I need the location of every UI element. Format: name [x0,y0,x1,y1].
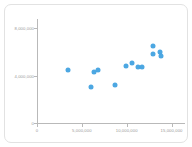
y-tick-label: 4,000,000 [14,73,34,78]
x-tick-label: 0 [36,128,38,133]
scatter-point[interactable] [130,61,135,66]
y-axis-line [37,19,38,123]
scatter-point[interactable] [150,44,155,49]
y-tick-label: 0 [32,121,34,126]
x-tick-label: 10,000,000 [116,128,138,133]
scatter-plot: 04,000,0008,000,000 05,000,00010,000,000… [5,5,189,144]
scatter-point[interactable] [95,68,100,73]
x-tick-label: 5,000,000 [72,128,92,133]
x-tick-mark [172,124,173,127]
x-tick-mark [82,124,83,127]
scatter-point[interactable] [113,82,118,87]
scatter-point[interactable] [88,84,93,89]
chart-card: 04,000,0008,000,000 05,000,00010,000,000… [4,4,188,143]
x-tick-mark [37,124,38,127]
x-axis-line [37,123,185,124]
x-tick-label: 15,000,000 [161,128,183,133]
scatter-point[interactable] [140,65,145,70]
scatter-point[interactable] [124,63,129,68]
x-tick-mark [127,124,128,127]
scatter-point[interactable] [66,68,71,73]
scatter-point[interactable] [158,53,163,58]
y-tick-label: 8,000,000 [14,26,34,31]
scatter-point[interactable] [151,52,156,57]
